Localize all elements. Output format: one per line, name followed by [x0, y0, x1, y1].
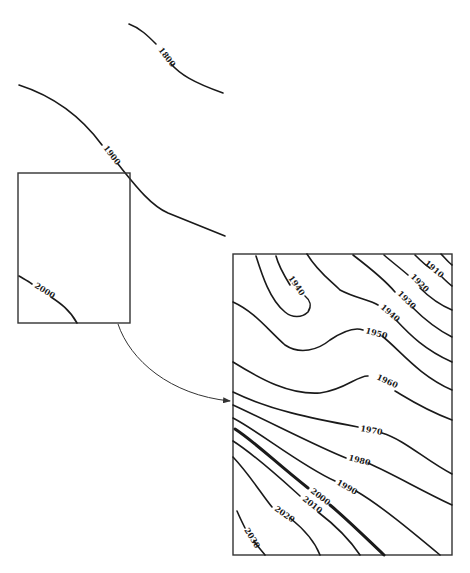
inset-contour-2000: 2000	[19, 276, 77, 323]
contour-label-1940-right: 1940	[379, 302, 403, 324]
contour-label-1800: 1800	[156, 45, 178, 69]
contour-1900: 1900	[19, 85, 225, 236]
contour-label-1970: 1970	[360, 423, 384, 437]
contour-label-2030: 2030	[242, 526, 263, 551]
contour-label-1920: 1920	[409, 271, 432, 294]
connector-arrow	[118, 324, 230, 401]
contour-label-1950: 1950	[364, 325, 389, 341]
contour-label-1900: 1900	[101, 143, 123, 167]
contour-diagram: 1800 1900 2000 1910 1920 1930 1940	[0, 0, 470, 573]
contour-label-1990: 1990	[335, 477, 360, 497]
inset-box	[18, 173, 130, 323]
contour-label-2000-inset: 2000	[33, 280, 58, 301]
contour-label-1980: 1980	[347, 452, 372, 468]
contour-label-1930: 1930	[396, 288, 419, 311]
enlargement-contours: 1910 1920 1930 1940 1940 1950 1960 1970	[233, 254, 452, 555]
contour-1800: 1800	[129, 24, 223, 93]
contour-label-1960: 1960	[375, 372, 400, 391]
contour-label-1910: 1910	[423, 258, 447, 280]
